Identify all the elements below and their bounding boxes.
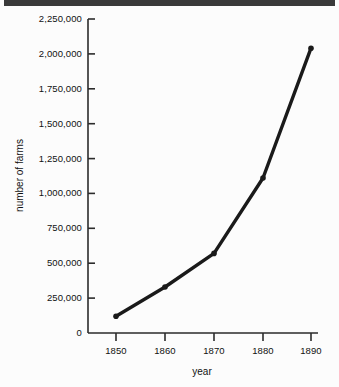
ytick-label-1750000: 1,750,000 [2,83,82,94]
x-axis-title: year [88,366,316,377]
xtick-label-1880: 1880 [238,345,288,356]
data-point-1880 [260,175,266,181]
y-axis-title: number of farms [14,121,25,231]
xtick-label-1890: 1890 [286,345,336,356]
ytick-label-2000000: 2,000,000 [2,48,82,59]
ytick-label-250000: 250,000 [2,292,82,303]
data-point-markers [113,45,314,319]
ytick-label-0: 0 [2,327,82,338]
xtick-label-1860: 1860 [140,345,190,356]
xtick-label-1850: 1850 [91,345,141,356]
y-tick-marks [88,19,95,298]
ytick-label-2250000: 2,250,000 [2,13,82,24]
data-point-1850 [113,313,119,319]
x-tick-marks [116,333,311,341]
data-line-series-1 [116,48,311,316]
data-point-1890 [308,45,314,51]
data-point-1870 [211,251,217,257]
data-point-1860 [162,284,168,290]
xtick-label-1870: 1870 [189,345,239,356]
ytick-label-500000: 500,000 [2,257,82,268]
chart-figure: 2,250,000 2,000,000 1,750,000 1,500,000 … [0,0,339,387]
